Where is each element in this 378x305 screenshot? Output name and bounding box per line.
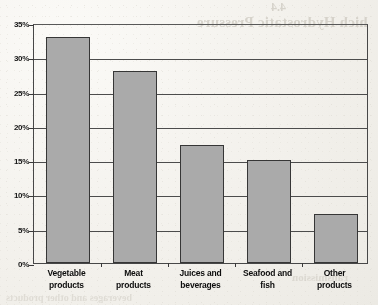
plot-area bbox=[33, 24, 368, 264]
x-axis-tick bbox=[235, 263, 236, 267]
x-axis-tick bbox=[302, 263, 303, 267]
x-axis-label-line: Juices and bbox=[167, 268, 234, 280]
x-axis-label-line: Vegetable bbox=[33, 268, 100, 280]
bar bbox=[247, 160, 291, 263]
y-axis-tick-label: 25% bbox=[1, 88, 29, 97]
x-axis-label-line: products bbox=[100, 280, 167, 292]
bar bbox=[113, 71, 157, 263]
x-axis-category-label: Juices andbeverages bbox=[167, 268, 234, 291]
x-axis-tick bbox=[168, 263, 169, 267]
bar-chart: 0%5%10%15%20%25%30%35% Vegetableproducts… bbox=[0, 0, 378, 305]
y-axis-tick-label: 35% bbox=[1, 20, 29, 29]
y-axis-tick-label: 5% bbox=[1, 225, 29, 234]
x-axis-label-line: products bbox=[301, 280, 368, 292]
y-axis-tick-label: 10% bbox=[1, 191, 29, 200]
x-axis-category-label: Vegetableproducts bbox=[33, 268, 100, 291]
y-axis-tick bbox=[29, 265, 34, 266]
x-axis-label-line: Seafood and bbox=[234, 268, 301, 280]
x-axis-category-labels: VegetableproductsMeatproductsJuices andb… bbox=[33, 268, 368, 302]
y-axis-tick-labels: 0%5%10%15%20%25%30%35% bbox=[0, 24, 29, 264]
x-axis-label-line: fish bbox=[234, 280, 301, 292]
y-axis-tick-label: 30% bbox=[1, 54, 29, 63]
bar bbox=[46, 37, 90, 263]
x-axis-category-label: Seafood andfish bbox=[234, 268, 301, 291]
x-axis-tick bbox=[101, 263, 102, 267]
bar bbox=[180, 145, 224, 263]
bar bbox=[314, 214, 358, 263]
x-axis-label-line: Other bbox=[301, 268, 368, 280]
x-axis-label-line: products bbox=[33, 280, 100, 292]
x-axis-category-label: Otherproducts bbox=[301, 268, 368, 291]
y-axis-tick-label: 15% bbox=[1, 157, 29, 166]
x-axis-category-label: Meatproducts bbox=[100, 268, 167, 291]
bars-group bbox=[34, 25, 367, 263]
x-axis-label-line: Meat bbox=[100, 268, 167, 280]
x-axis-label-line: beverages bbox=[167, 280, 234, 292]
y-axis-tick-label: 0% bbox=[1, 260, 29, 269]
y-axis-tick-label: 20% bbox=[1, 122, 29, 131]
